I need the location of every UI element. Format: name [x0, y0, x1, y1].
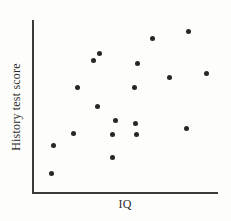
x-axis-label: IQ — [32, 197, 218, 212]
data-point — [135, 61, 140, 66]
data-point — [95, 104, 100, 109]
plot-area: IQ History test score — [0, 0, 231, 221]
data-point — [110, 132, 115, 137]
data-point — [204, 71, 209, 76]
data-point — [132, 85, 137, 90]
data-point — [51, 143, 56, 148]
data-point — [71, 131, 76, 136]
data-point — [49, 171, 54, 176]
data-point — [167, 75, 172, 80]
data-point — [150, 36, 155, 41]
y-axis-line — [32, 20, 34, 194]
data-point — [110, 155, 115, 160]
data-point — [184, 126, 189, 131]
y-axis-label: History test score — [6, 20, 26, 194]
x-axis-line — [32, 192, 218, 194]
data-point — [133, 121, 138, 126]
data-point — [97, 51, 102, 56]
data-point — [91, 58, 96, 63]
data-point — [75, 85, 80, 90]
data-point — [113, 118, 118, 123]
data-point — [186, 29, 191, 34]
data-point — [134, 132, 139, 137]
scatter-plot-figure: IQ History test score — [0, 0, 231, 221]
